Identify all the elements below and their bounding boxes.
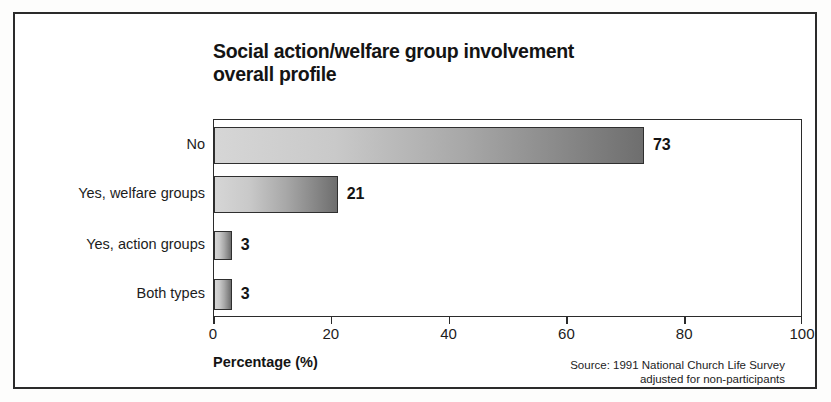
category-label: No	[25, 136, 205, 152]
x-tick	[449, 317, 451, 324]
x-tick	[566, 317, 568, 324]
bar-no	[214, 127, 644, 164]
category-label: Yes, welfare groups	[25, 185, 205, 201]
source-note: Source: 1991 National Church Life Survey…	[570, 359, 785, 386]
category-axis-labels: NoYes, welfare groupsYes, action groupsB…	[23, 119, 205, 317]
chart-outer-border: Social action/welfare group involvement …	[13, 12, 817, 389]
x-tick-label: 100	[789, 325, 814, 342]
bar-yes-action-groups	[214, 231, 232, 260]
x-tick-label: 60	[558, 325, 575, 342]
category-label: Yes, action groups	[25, 236, 205, 252]
chart-page: Social action/welfare group involvement …	[0, 0, 831, 402]
x-axis-tick-labels: 020406080100	[213, 325, 802, 345]
x-tick-label: 20	[322, 325, 339, 342]
x-tick	[801, 317, 803, 324]
bar-both-types	[214, 279, 232, 310]
plot-area: 732133	[213, 119, 802, 317]
x-tick-label: 0	[209, 325, 217, 342]
category-label: Both types	[25, 285, 205, 301]
x-tick-label: 80	[676, 325, 693, 342]
bar-value-label: 3	[241, 236, 250, 254]
bar-yes-welfare-groups	[214, 176, 338, 213]
chart-title: Social action/welfare group involvement …	[213, 40, 733, 86]
x-axis-title: Percentage (%)	[213, 354, 318, 370]
bar-value-label: 73	[653, 136, 670, 154]
bar-value-label: 21	[347, 185, 364, 203]
x-tick-label: 40	[440, 325, 457, 342]
x-axis-tick-marks	[213, 317, 802, 325]
bar-value-label: 3	[241, 285, 250, 303]
x-tick	[684, 317, 686, 324]
x-tick	[331, 317, 333, 324]
x-tick	[213, 317, 215, 324]
